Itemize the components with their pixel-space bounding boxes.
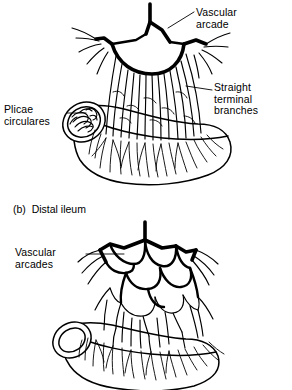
jejunum-arcade-right-limb — [184, 40, 206, 44]
panel-caption-distal-ileum: (b) Distal ileum — [13, 203, 86, 215]
figure-root: .outline { fill:#ffffff; stroke:#000000;… — [0, 0, 292, 390]
label-vascular-arcade: Vascular arcade — [196, 7, 288, 30]
label-straight-terminal-branches: Straight terminal branches — [214, 82, 292, 117]
label-vascular-arcades: Vascular arcades — [15, 247, 85, 270]
leader-vascular-arcade — [168, 12, 194, 28]
jejunum-feeding-artery — [146, 4, 150, 34]
anatomy-illustration: .outline { fill:#ffffff; stroke:#000000;… — [0, 0, 292, 390]
label-plicae-circulares: Plicae circulares — [4, 104, 66, 127]
jejunum-feeding-branch-right — [150, 22, 170, 42]
panel-a-jejunum — [55, 4, 231, 185]
